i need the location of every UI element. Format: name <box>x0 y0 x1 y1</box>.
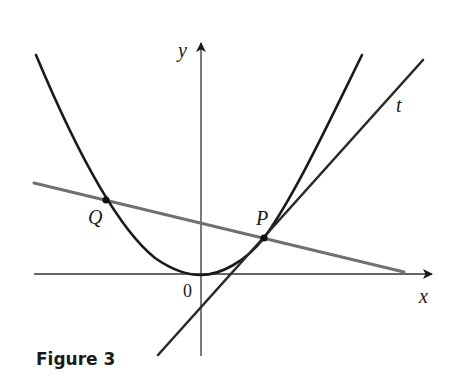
origin-label: 0 <box>183 281 192 301</box>
y-axis-label: y <box>176 39 187 62</box>
figure-caption: Figure 3 <box>36 349 115 369</box>
point-q <box>102 196 109 203</box>
x-axis-label: x <box>418 285 428 307</box>
parabola-curve <box>36 55 362 275</box>
tangent-label: t <box>396 94 402 116</box>
point-q-label: Q <box>88 206 103 228</box>
point-p-label: P <box>255 207 268 229</box>
figure-3-diagram: y x 0 Q P t Figure 3 <box>0 0 452 390</box>
tangent-line-t <box>158 60 423 355</box>
point-p <box>260 234 267 241</box>
